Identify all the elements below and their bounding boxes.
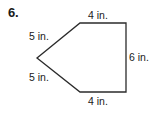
side-label-top: 4 in. [88,10,108,21]
side-label-bottom-left: 5 in. [29,72,49,83]
side-label-right: 6 in. [129,52,149,63]
side-label-bottom: 4 in. [88,96,108,107]
pentagon-outline [37,23,126,92]
side-label-top-left: 5 in. [29,31,49,42]
geometry-figure: 6. 5 in. 4 in. 6 in. 4 in. 5 in. [0,0,157,116]
